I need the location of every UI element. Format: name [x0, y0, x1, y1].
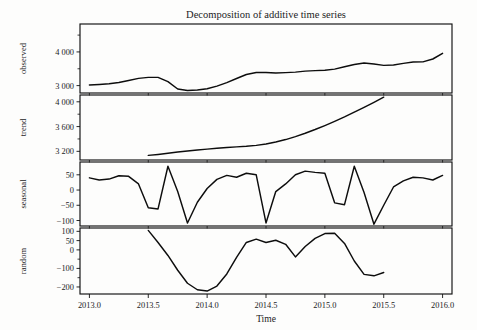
- y-tick-label-random: −100: [57, 264, 74, 273]
- chart-title: Decomposition of additive time series: [186, 9, 346, 20]
- x-tick-label: 2014.0: [196, 301, 219, 310]
- x-tick-label: 2015.5: [372, 301, 395, 310]
- y-tick-label-observed: 4 000: [55, 48, 74, 57]
- series-line-seasonal: [89, 166, 442, 224]
- x-tick-label: 2013.0: [78, 301, 101, 310]
- y-tick-label-random: 100: [61, 227, 74, 236]
- y-tick-label-trend: 4 000: [55, 98, 74, 107]
- y-tick-label-trend: 3 200: [55, 147, 74, 156]
- panel-label-trend: trend: [18, 118, 28, 136]
- panels-group: 3 0004 000observed3 2003 6004 000trend−1…: [18, 24, 454, 310]
- panel-frame-observed: [80, 24, 452, 93]
- y-tick-label-seasonal: 50: [66, 171, 74, 180]
- series-line-observed: [89, 53, 442, 90]
- x-tick-label: 2016.0: [431, 301, 454, 310]
- panel-label-observed: observed: [18, 42, 28, 74]
- y-tick-label-observed: 3 000: [55, 82, 74, 91]
- y-tick-label-seasonal: −100: [57, 217, 74, 226]
- series-line-trend: [148, 97, 383, 155]
- y-tick-label-seasonal: −50: [61, 201, 74, 210]
- panel-frame-seasonal: [80, 162, 452, 226]
- panel-frame-trend: [80, 95, 452, 160]
- series-line-random: [148, 230, 383, 291]
- panel-trend: 3 2003 6004 000trend: [18, 95, 452, 163]
- panel-seasonal: −100−50050seasonal: [18, 162, 452, 229]
- y-tick-label-random: 0: [70, 246, 74, 255]
- panel-frame-random: [80, 228, 452, 294]
- y-tick-label-trend: 3 600: [55, 123, 74, 132]
- panel-observed: 3 0004 000observed: [18, 24, 452, 96]
- panel-random: −200−100050100random2013.02013.52014.020…: [18, 227, 454, 310]
- x-tick-label: 2014.5: [254, 301, 277, 310]
- x-axis-title: Time: [256, 314, 276, 324]
- y-tick-label-random: −200: [57, 283, 74, 292]
- panel-label-random: random: [18, 248, 28, 275]
- x-tick-label: 2013.5: [137, 301, 160, 310]
- decomposition-plot: Decomposition of additive time series 3 …: [0, 0, 477, 330]
- panel-label-seasonal: seasonal: [18, 179, 28, 209]
- y-tick-label-random: 50: [66, 237, 74, 246]
- timeseries-decomposition-figure: Decomposition of additive time series 3 …: [0, 0, 477, 330]
- y-tick-label-seasonal: 0: [70, 186, 74, 195]
- x-tick-label: 2015.0: [313, 301, 336, 310]
